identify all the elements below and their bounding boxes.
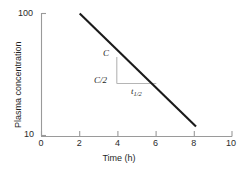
x-tick-label-8: 8 bbox=[191, 138, 196, 148]
annotation-t-subscript: 1/2 bbox=[134, 90, 142, 97]
annotation-c: C bbox=[103, 48, 109, 58]
x-tick-label-2: 2 bbox=[77, 138, 82, 148]
annotation-t-half: t1/2 bbox=[131, 86, 142, 96]
x-tick-label-4: 4 bbox=[115, 138, 120, 148]
chart-svg bbox=[0, 0, 249, 172]
elimination-curve bbox=[80, 14, 196, 127]
x-axis-title: Time (h) bbox=[102, 153, 135, 163]
x-tick-label-6: 6 bbox=[153, 138, 158, 148]
y-tick-label-10: 10 bbox=[24, 129, 34, 139]
x-tick-label-10: 10 bbox=[226, 138, 236, 148]
x-tick-label-0: 0 bbox=[39, 138, 44, 148]
y-tick-label-100: 100 bbox=[18, 8, 33, 18]
annotation-c-half: C/2 bbox=[94, 75, 107, 85]
semilog-plasma-concentration-chart: 100 10 0 2 4 6 8 10 Time (h) Plasma conc… bbox=[0, 0, 249, 172]
y-axis-title: Plasma concentration bbox=[13, 41, 23, 128]
